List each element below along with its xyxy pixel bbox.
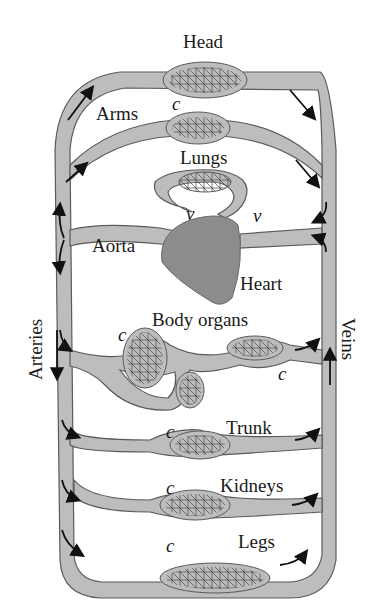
heart-shape [162, 216, 241, 304]
label-head: Head [183, 32, 223, 51]
label-arms: Arms [96, 104, 138, 123]
label-veins: Veins [339, 318, 358, 360]
label-legs: Legs [238, 532, 275, 551]
capillary-marker-legs: c [166, 536, 174, 555]
label-body-organs: Body organs [152, 310, 248, 329]
valve-marker-right: v [253, 206, 261, 225]
capillary-marker-organs-right: c [278, 364, 286, 383]
label-lungs: Lungs [180, 148, 228, 167]
capillary-marker-trunk: c [166, 422, 174, 441]
label-kidneys: Kidneys [220, 476, 283, 495]
valve-marker-left: v [186, 204, 194, 223]
capillary-marker-kidneys: c [166, 478, 174, 497]
label-trunk: Trunk [226, 418, 272, 437]
capillary-marker-head: c [172, 94, 180, 113]
capillary-marker-organs-left: c [118, 325, 126, 344]
label-arteries: Arteries [26, 319, 45, 380]
vessel-network [0, 0, 380, 611]
circulatory-diagram: Head Arms c Lungs v v Aorta Heart Body o… [0, 0, 380, 611]
label-heart: Heart [240, 274, 282, 293]
label-aorta: Aorta [92, 236, 135, 255]
